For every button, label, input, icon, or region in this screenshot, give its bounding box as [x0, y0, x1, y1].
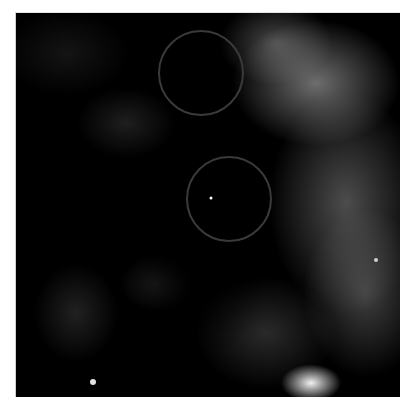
roi-circle-1: [159, 31, 243, 115]
roi-circle-2: [187, 157, 271, 241]
bright-spot: [90, 379, 96, 385]
annotation-layer: [0, 0, 410, 414]
bright-spot: [210, 197, 213, 200]
bright-spot: [374, 258, 378, 262]
